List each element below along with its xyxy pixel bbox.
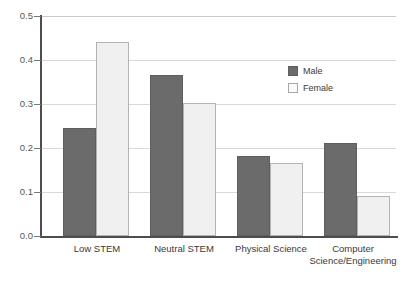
y-tick-mark-0.1 <box>34 192 41 193</box>
y-axis-line <box>40 15 42 238</box>
female-swatch-icon <box>288 83 298 93</box>
legend-label-female: Female <box>303 83 333 93</box>
y-tick-label-0.1: 0.1 <box>3 187 33 197</box>
y-tick-mark-0.3 <box>34 104 41 105</box>
legend-label-male: Male <box>303 66 323 76</box>
bar-chart: 0.5 0.4 0.3 0.2 0.1 0.0 Low STEM Neutral… <box>0 0 410 287</box>
legend-item-male: Male <box>288 64 333 77</box>
bar-female-low-stem <box>96 42 129 236</box>
bar-female-physical-science <box>270 163 303 236</box>
bar-male-neutral-stem <box>150 75 183 236</box>
x-axis-line <box>41 236 398 238</box>
y-tick-label-0.0: 0.0 <box>3 231 33 241</box>
y-tick-mark-0.4 <box>34 60 41 61</box>
x-label-computer-science: Computer Science/Engineering <box>296 243 410 266</box>
x-label-computer-science-line2: Science/Engineering <box>296 255 410 267</box>
y-tick-mark-0.5 <box>34 16 41 17</box>
bar-male-low-stem <box>63 128 96 236</box>
bar-male-computer-science <box>324 143 357 236</box>
bars-layer <box>41 16 396 236</box>
y-tick-label-0.4: 0.4 <box>3 55 33 65</box>
male-swatch-icon <box>288 66 298 76</box>
x-label-computer-science-line1: Computer <box>296 243 410 255</box>
legend-item-female: Female <box>288 81 333 94</box>
bar-male-physical-science <box>237 156 270 236</box>
y-tick-label-0.3: 0.3 <box>3 99 33 109</box>
y-tick-mark-0.0 <box>34 236 41 237</box>
y-tick-label-0.2: 0.2 <box>3 143 33 153</box>
y-tick-mark-0.2 <box>34 148 41 149</box>
y-tick-label-0.5: 0.5 <box>3 11 33 21</box>
bar-female-computer-science <box>357 196 390 236</box>
y-axis-labels: 0.5 0.4 0.3 0.2 0.1 0.0 <box>0 0 33 287</box>
bar-female-neutral-stem <box>183 103 216 236</box>
legend: Male Female <box>288 64 333 98</box>
